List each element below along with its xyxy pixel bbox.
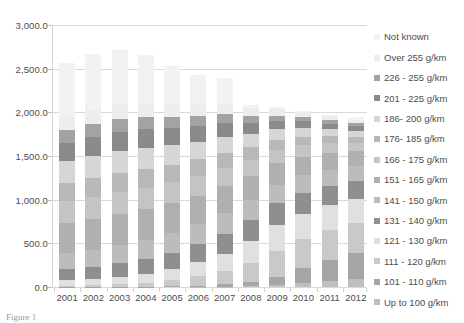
legend-item[interactable]: 131 - 140 g/km (374, 211, 464, 231)
bar-2011[interactable] (322, 115, 338, 287)
bar-segment (190, 75, 206, 105)
legend-label: 111 - 120 g/km (384, 257, 446, 267)
bar-segment (269, 225, 285, 250)
bar-segment (348, 223, 364, 253)
x-axis-label-2002: 2002 (80, 292, 106, 303)
legend-label: 101 - 110 g/km (384, 277, 447, 287)
x-axis-label-2009: 2009 (264, 292, 290, 303)
legend-item[interactable]: 151 - 165 g/km (374, 170, 464, 190)
bar-segment (85, 156, 101, 178)
legend-item[interactable]: 141 - 150 g/km (374, 190, 464, 210)
bar-segment (164, 233, 180, 253)
bar-segment (112, 50, 128, 104)
bar-segment (59, 130, 75, 142)
bar-2001[interactable] (59, 63, 75, 287)
bar-segment (164, 203, 180, 233)
bar-segment (243, 286, 259, 287)
legend-label: 151 - 165 g/km (384, 175, 447, 185)
bar-segment (85, 124, 101, 137)
bar-segment (190, 116, 206, 126)
bar-segment (269, 121, 285, 129)
x-tickmark (343, 288, 344, 292)
bar-segment (138, 55, 154, 104)
legend-item[interactable]: Up to 100 g/km (374, 292, 464, 312)
legend-item[interactable]: 186- 200 g/km (374, 109, 464, 129)
legend-item[interactable]: 111 - 120 g/km (374, 251, 464, 271)
bar-2002[interactable] (85, 54, 101, 287)
bar-segment (295, 157, 311, 176)
bar-2012[interactable] (348, 117, 364, 287)
bar-segment (85, 250, 101, 267)
bar-segment (164, 286, 180, 287)
bar-segment (269, 129, 285, 139)
x-tickmark (238, 288, 239, 292)
bar-segment (190, 224, 206, 244)
bar-segment (243, 116, 259, 123)
y-axis-label: 500.0 (2, 238, 48, 249)
legend-item[interactable]: 101 - 110 g/km (374, 272, 464, 292)
bar-2006[interactable] (190, 75, 206, 287)
bar-segment (322, 153, 338, 170)
y-axis-label: 1,500.0 (2, 151, 48, 162)
y-axis-label: 0.0 (2, 282, 48, 293)
x-tickmark (317, 288, 318, 292)
legend-item[interactable]: 166 - 175 g/km (374, 149, 464, 169)
bar-segment (295, 193, 311, 214)
bar-2008[interactable] (243, 104, 259, 287)
bar-segment (269, 185, 285, 204)
legend-item[interactable]: 121 - 130 g/km (374, 231, 464, 251)
bar-segment (190, 159, 206, 176)
bar-segment (322, 281, 338, 287)
bar-segment (269, 163, 285, 184)
bar-2007[interactable] (217, 77, 233, 287)
bar-segment (59, 63, 75, 117)
legend-swatch-icon (374, 258, 380, 264)
bar-segment (164, 66, 180, 104)
bar-2004[interactable] (138, 55, 154, 287)
stacked-bar-chart: 2001200220032004200520062007200820092010… (0, 0, 464, 323)
legend-item[interactable]: 201 - 225 g/km (374, 88, 464, 108)
legend-label: 141 - 150 g/km (384, 196, 447, 206)
bar-segment (348, 166, 364, 181)
legend-label: 121 - 130 g/km (384, 236, 447, 246)
bar-segment (164, 269, 180, 280)
bar-segment (322, 205, 338, 229)
bar-2003[interactable] (112, 50, 128, 287)
bar-segment (164, 145, 180, 165)
legend-swatch-icon (374, 299, 380, 305)
bar-segment (164, 165, 180, 183)
bar-segment (138, 117, 154, 129)
legend-label: 176- 185 g/km (384, 134, 445, 144)
legend-item[interactable]: Over 255 g/km (374, 47, 464, 67)
legend-item[interactable]: 226 - 255 g/km (374, 68, 464, 88)
x-axis-label-2010: 2010 (290, 292, 316, 303)
plot-area: 2001200220032004200520062007200820092010… (52, 25, 367, 288)
legend-item[interactable]: 176- 185 g/km (374, 129, 464, 149)
bar-segment (190, 276, 206, 285)
bar-segment (59, 269, 75, 280)
legend-swatch-icon (374, 95, 380, 101)
bar-segment (295, 145, 311, 156)
bar-segment (295, 214, 311, 239)
x-axis-label-2012: 2012 (343, 292, 369, 303)
x-tickmark (290, 288, 291, 292)
bar-segment (269, 140, 285, 150)
bar-segment (138, 240, 154, 259)
bar-2005[interactable] (164, 66, 180, 287)
bar-group: 2001200220032004200520062007200820092010… (52, 25, 367, 288)
figure-caption: Figure 1 (6, 312, 36, 322)
bar-segment (243, 108, 259, 116)
bar-segment (322, 170, 338, 186)
bar-segment (217, 254, 233, 272)
bar-segment (112, 214, 128, 245)
legend-swatch-icon (374, 238, 380, 244)
bar-2009[interactable] (269, 107, 285, 287)
bar-segment (59, 161, 75, 182)
bar-segment (295, 137, 311, 146)
bar-segment (269, 150, 285, 163)
bar-2010[interactable] (295, 111, 311, 287)
bar-segment (138, 209, 154, 240)
x-tickmark (80, 288, 81, 292)
legend-item[interactable]: Not known (374, 27, 464, 47)
bar-segment (322, 230, 338, 260)
